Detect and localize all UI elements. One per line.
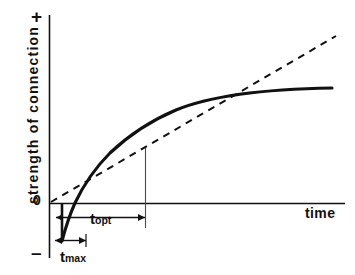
t-max-dimension-arrow (55, 234, 86, 247)
y-axis-negative-tick-label: – (31, 243, 42, 262)
t-max-subscript: max (65, 252, 86, 264)
tangent-dashed-line (51, 36, 336, 202)
t-opt-subscript: opt (95, 214, 111, 226)
y-axis-positive-tick-label: + (31, 7, 42, 26)
t-opt-annotation-label: topt (90, 211, 111, 226)
plot-area (0, 0, 355, 275)
x-axis-label: time (305, 206, 335, 220)
y-axis-label: strength of connection (26, 20, 40, 210)
t-max-annotation-label: tmax (60, 249, 86, 264)
y-axis-zero-tick-label: 0 (33, 193, 41, 207)
figure-canvas: strength of connection + – 0 time topt t… (0, 0, 355, 275)
